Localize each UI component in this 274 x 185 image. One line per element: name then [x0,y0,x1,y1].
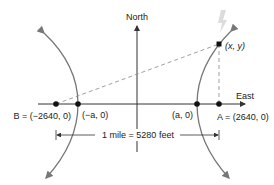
point-xy [217,42,222,47]
point-b-label: B = (−2640, 0) [13,111,71,121]
hyperbola-diagram: North East (x, y) B = (−2640, 0) (−a, 0)… [0,0,274,185]
lightning-icon [218,10,227,33]
point-xy-label: (x, y) [225,41,245,51]
north-label: North [126,12,148,22]
point-a-label: (a, 0) [172,110,193,120]
left-hyperbola-branch [44,33,78,178]
point-A-label: A = (2640, 0) [217,112,269,122]
point-A [216,101,222,107]
point-neg-a [75,101,81,107]
point-neg-a-label: (−a, 0) [82,110,108,120]
point-a [194,101,200,107]
dimension-label: 1 mile = 5280 feet [102,130,174,140]
point-b [53,101,59,107]
east-label: East [236,91,255,101]
